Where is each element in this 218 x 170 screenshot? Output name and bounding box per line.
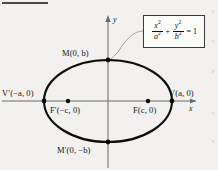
marker-left-focus: [66, 99, 70, 103]
marker-right-vertex: [170, 99, 175, 104]
ellipse-figure: y x M(0, b) M′(0, −b) V′(−a, 0) V(a, 0) …: [0, 0, 218, 170]
marker-bottom-vertex: [106, 140, 111, 145]
equation-expression: x2 a2 + y2 b2 = 1: [151, 22, 197, 41]
exponent-a: 2: [158, 30, 161, 36]
fraction-denominator-b: b2: [174, 33, 183, 41]
x-axis-label: x: [189, 104, 193, 113]
label-left-vertex: V′(−a, 0): [2, 88, 34, 98]
exponent-x: 2: [158, 19, 161, 25]
scan-artifact: [212, 40, 214, 43]
exponent-b: 2: [179, 30, 182, 36]
label-bottom-vertex: M′(0, −b): [57, 145, 91, 155]
equals-one: = 1: [187, 28, 198, 36]
scan-artifact: [212, 10, 214, 13]
exponent-y: 2: [178, 19, 181, 25]
label-left-focus: F′(−c, 0): [50, 105, 80, 115]
y-axis-label: y: [113, 15, 117, 24]
scan-artifact: [212, 70, 214, 73]
label-right-vertex: V(a, 0): [169, 88, 194, 98]
label-top-vertex: M(0, b): [62, 48, 89, 58]
plus-operator: +: [165, 28, 170, 36]
y-axis: [105, 15, 110, 168]
scan-artifact: [212, 112, 214, 115]
marker-left-vertex: [42, 99, 47, 104]
marker-right-focus: [146, 99, 150, 103]
x-axis: [2, 98, 196, 103]
scan-artifact: [212, 140, 214, 143]
marker-top-vertex: [106, 58, 111, 63]
fraction-y-over-b: y2 b2: [173, 22, 184, 41]
fraction-x-over-a: x2 a2: [152, 22, 163, 41]
equation-leader-line: [111, 31, 143, 59]
label-right-focus: F(c, 0): [133, 105, 156, 115]
fraction-denominator-a: a2: [153, 33, 162, 41]
equation-box: x2 a2 + y2 b2 = 1: [143, 15, 205, 48]
